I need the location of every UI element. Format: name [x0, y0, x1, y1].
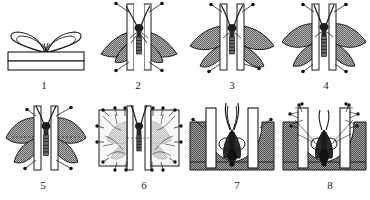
left-board — [206, 108, 216, 168]
panel-6-caption: 6 — [134, 179, 154, 191]
right-board — [340, 108, 350, 168]
panel-4-wings-nearly-set: 4 — [279, 0, 370, 78]
relaxing-box — [8, 52, 84, 70]
panel-1-specimen-on-box: 1 — [0, 0, 92, 78]
right-board — [248, 108, 258, 168]
paper-strip-right — [151, 110, 179, 166]
panel-3-caption: 3 — [222, 79, 242, 91]
panel-6-paper-strips: 6 — [93, 100, 185, 178]
panel-7-caption: 7 — [227, 179, 247, 191]
panel-8-caption: 8 — [320, 179, 340, 191]
paper-strip-left — [99, 110, 127, 166]
figure-sheet: 1 — [0, 0, 370, 200]
panel-1-caption: 1 — [34, 79, 54, 91]
body-and-antennae — [225, 103, 239, 167]
panel-5-caption: 5 — [33, 179, 53, 191]
right-board — [144, 4, 151, 70]
panel-2-caption: 2 — [128, 79, 148, 91]
panel-2-wings-drooped: 2 — [93, 0, 185, 78]
panel-4-caption: 4 — [316, 79, 336, 91]
left-board — [298, 108, 308, 168]
panel-3-wings-partly-raised: 3 — [186, 0, 278, 78]
panel-8-moth-secured: 8 — [279, 100, 370, 178]
panel-5-wings-fully-spread: 5 — [0, 100, 92, 178]
panel-7-moth-deep-groove: 7 — [186, 100, 278, 178]
